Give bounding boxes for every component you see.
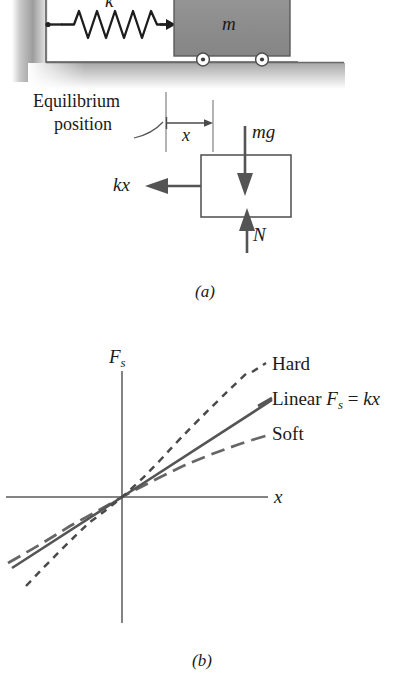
y-axis-label-variable: F [109, 346, 121, 367]
panel-b: Fs x Hard Linear Fs = kx Soft (b) [0, 0, 413, 696]
panel-b-graphics [0, 0, 413, 696]
legend-linear-equals: = [343, 388, 363, 409]
chart-axes [6, 371, 268, 623]
legend-item-soft: Soft [272, 424, 304, 443]
legend-leader-soft [252, 434, 272, 440]
figure-root: k m Equilibrium position x mg kx N (a) [0, 0, 413, 696]
y-axis-label: Fs [109, 347, 126, 370]
y-axis-label-subscript: s [121, 355, 126, 370]
series-linear [12, 400, 272, 568]
legend-linear-rhs: kx [363, 388, 380, 409]
x-axis-label: x [274, 487, 282, 506]
panel-b-caption: (b) [192, 652, 212, 669]
legend-item-hard: Hard [272, 354, 310, 373]
legend-linear-prefix: Linear [272, 388, 326, 409]
legend-leader-hard [252, 363, 266, 372]
legend-linear-variable: F [326, 388, 338, 409]
legend-item-linear: Linear Fs = kx [272, 389, 380, 412]
series-hard [26, 372, 248, 586]
series-soft [8, 440, 252, 563]
